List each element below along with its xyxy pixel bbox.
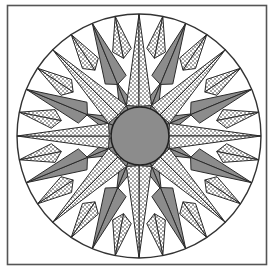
compass-svg [0, 0, 272, 270]
center-circle [111, 107, 169, 165]
quilt-diagram: Mariner's Compass quilt block [0, 0, 272, 270]
